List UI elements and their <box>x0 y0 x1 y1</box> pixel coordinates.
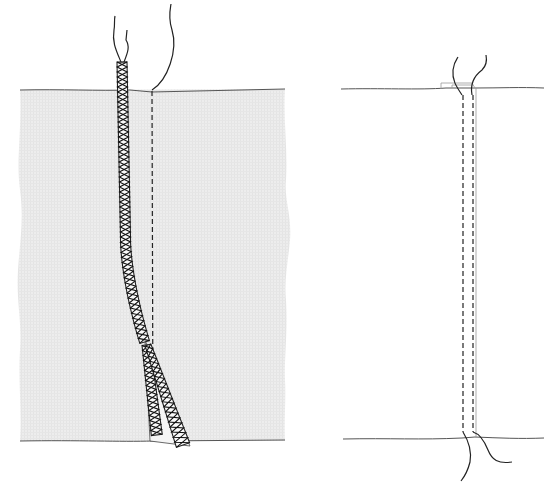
thread-tail-bottom-right <box>473 432 512 463</box>
fabric-bottom-edge-right <box>343 437 544 439</box>
thread-tail-top-left <box>453 57 462 95</box>
thread-tail-seam <box>152 4 174 90</box>
sewing-diagram <box>0 0 544 486</box>
fabric-top-edge-right <box>341 88 544 89</box>
left-panel <box>18 4 291 447</box>
thread-tail-top-right <box>471 55 486 95</box>
right-panel <box>341 55 544 481</box>
thread-tail-serge-left <box>113 16 121 62</box>
thread-tail-bottom-left <box>461 432 471 481</box>
thread-tail-serge-right <box>124 30 128 62</box>
